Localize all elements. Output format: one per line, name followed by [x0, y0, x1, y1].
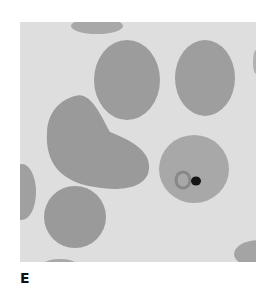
micrograph-panel: [20, 22, 256, 262]
blood-cells-image: [20, 22, 256, 262]
panel-label: E: [20, 270, 30, 286]
